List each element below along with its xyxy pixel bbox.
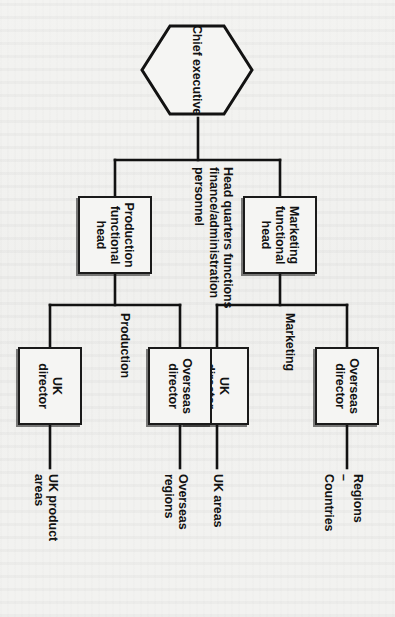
- node-production-functional-head-label: Production functional head: [94, 203, 136, 268]
- annotation-marketing-branch: Marketing: [283, 313, 297, 423]
- org-chart-rotated-wrapper: Chief executive Marketing functional hea…: [0, 0, 395, 617]
- node-marketing-functional-head-label: Marketing functional head: [259, 206, 301, 265]
- annotation-production-overseas-leaf: Overseas regions: [162, 474, 191, 604]
- node-chief-executive-label: Chief executive: [139, 22, 255, 118]
- node-marketing-functional-head[interactable]: Marketing functional head: [243, 196, 317, 274]
- org-chart: Chief executive Marketing functional hea…: [0, 0, 395, 617]
- annotation-marketing-uk-leaf: UK areas: [211, 474, 225, 604]
- annotation-head-quarters-functions: Head quarters functions finance/administ…: [192, 167, 235, 367]
- node-production-uk-director-label: UK director: [36, 363, 64, 409]
- node-marketing-overseas-director[interactable]: Overseas director: [315, 347, 379, 425]
- annotation-production-branch: Production: [118, 313, 132, 423]
- annotation-marketing-overseas-leaf: Regions – Countries: [322, 474, 365, 604]
- node-production-uk-director[interactable]: UK director: [18, 347, 82, 425]
- node-marketing-overseas-director-label: Overseas director: [333, 358, 361, 414]
- annotation-production-uk-leaf: UK product areas: [32, 474, 61, 604]
- node-production-overseas-director-label: Overseas director: [166, 358, 194, 414]
- node-production-functional-head[interactable]: Production functional head: [78, 196, 152, 274]
- node-chief-executive[interactable]: Chief executive: [139, 22, 255, 118]
